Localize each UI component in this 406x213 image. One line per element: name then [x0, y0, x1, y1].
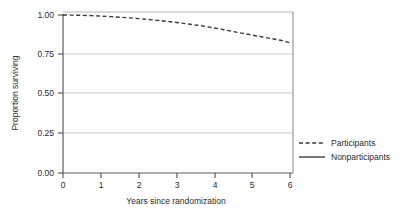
x-tick-label-5: 5 — [250, 180, 255, 190]
x-tick-label-0: 0 — [61, 180, 66, 190]
y-tick-label-0-00: 0.00 — [37, 168, 54, 178]
y-tick-label-0-25: 0.25 — [37, 128, 54, 138]
survival-chart-figure: 1.00 0.75 0.50 0.25 0.00 0 1 2 3 4 5 6 Y… — [0, 0, 406, 213]
chart-canvas: 1.00 0.75 0.50 0.25 0.00 0 1 2 3 4 5 6 Y… — [0, 0, 406, 213]
legend-label-nonparticipants: Nonparticipants — [331, 152, 390, 162]
x-tick-label-2: 2 — [137, 180, 142, 190]
x-tick-label-1: 1 — [99, 180, 104, 190]
y-tick-label-0-75: 0.75 — [37, 49, 54, 59]
x-tick-label-6: 6 — [288, 180, 293, 190]
legend-label-participants: Participants — [331, 138, 375, 148]
y-axis-title: Proportion surviving — [10, 55, 20, 130]
y-tick-label-0-50: 0.50 — [37, 88, 54, 98]
x-tick-label-4: 4 — [213, 180, 218, 190]
y-tick-label-1-00: 1.00 — [37, 10, 54, 20]
x-axis-title: Years since randomization — [126, 196, 226, 206]
x-tick-label-3: 3 — [175, 180, 180, 190]
